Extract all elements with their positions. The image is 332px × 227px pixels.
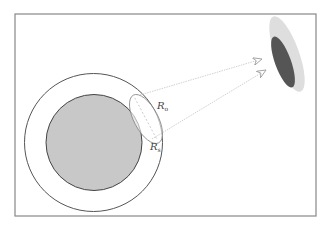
ray-arrow-upper	[140, 59, 262, 95]
inner-circle-core	[46, 95, 142, 191]
label-r-s-sub: s	[158, 146, 161, 153]
label-r-o: Ro	[156, 100, 169, 112]
target-object-group	[262, 12, 312, 95]
ray-arrow-lower	[152, 70, 266, 139]
diagram-canvas: Ro Rs	[0, 0, 332, 227]
label-r-o-sub: o	[165, 105, 169, 112]
